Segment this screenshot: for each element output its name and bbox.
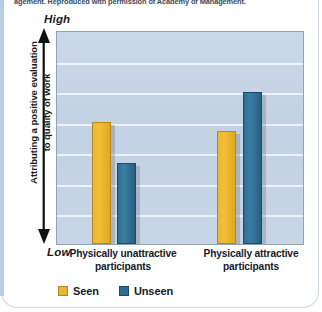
y-axis-caption-line-1: Attributing a positive evaluation <box>28 13 41 213</box>
bar-unseen-0[interactable] <box>117 163 136 244</box>
category-label-line-2: participants <box>186 261 316 274</box>
legend-label-unseen: Unseen <box>134 285 173 297</box>
chart-legend: Seen Unseen <box>58 285 173 297</box>
y-axis-caption: Attributing a positive evaluation to qua… <box>28 13 53 213</box>
category-label-line-2: participants <box>52 261 194 274</box>
bar-seen-1[interactable] <box>217 131 236 244</box>
legend-item-unseen[interactable]: Unseen <box>119 285 173 297</box>
legend-swatch-unseen-icon <box>119 286 129 296</box>
x-axis-category-label-1: Physically attractive participants <box>186 248 316 273</box>
bars-layer <box>57 32 303 244</box>
y-axis-caption-line-2: to quality of work <box>40 13 53 213</box>
plot-area <box>56 31 304 245</box>
legend-swatch-seen-icon <box>58 286 68 296</box>
legend-label-seen: Seen <box>73 285 99 297</box>
x-axis-category-label-0: Physically unattractive participants <box>52 248 194 273</box>
figure-card: agement. Reproduced with permission of A… <box>0 0 322 312</box>
bar-seen-0[interactable] <box>92 122 111 244</box>
left-accent-rule <box>0 0 4 296</box>
credit-line: agement. Reproduced with permission of A… <box>14 0 314 7</box>
category-label-line-1: Physically unattractive <box>52 248 194 261</box>
bar-unseen-1[interactable] <box>243 92 262 244</box>
category-label-line-1: Physically attractive <box>186 248 316 261</box>
legend-item-seen[interactable]: Seen <box>58 285 99 297</box>
